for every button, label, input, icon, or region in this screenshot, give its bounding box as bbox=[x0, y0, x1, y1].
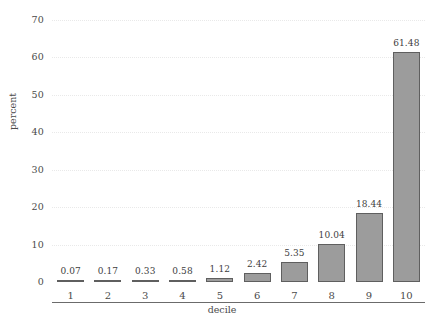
x-axis-title: decile bbox=[0, 305, 444, 315]
bar bbox=[206, 278, 233, 282]
gridline bbox=[52, 95, 425, 97]
bar-value-label: 5.35 bbox=[271, 249, 317, 258]
bar-chart: percent decile 0102030405060700.0710.172… bbox=[0, 0, 444, 327]
x-tick-label: 7 bbox=[277, 291, 311, 301]
bar bbox=[244, 273, 271, 282]
plot-area bbox=[52, 20, 425, 282]
x-tick-label: 8 bbox=[315, 291, 349, 301]
x-tick-label: 2 bbox=[91, 291, 125, 301]
bar bbox=[281, 262, 308, 282]
y-tick-label: 50 bbox=[4, 90, 44, 100]
y-tick-label: 10 bbox=[4, 240, 44, 250]
x-tick-label: 4 bbox=[166, 291, 200, 301]
x-tick-label: 3 bbox=[128, 291, 162, 301]
x-tick-label: 10 bbox=[389, 291, 423, 301]
x-tick-label: 6 bbox=[240, 291, 274, 301]
gridline bbox=[52, 57, 425, 59]
bar-value-label: 61.48 bbox=[383, 39, 429, 48]
bar bbox=[356, 213, 383, 282]
bar bbox=[318, 244, 345, 282]
bar-value-label: 10.04 bbox=[309, 231, 355, 240]
bar bbox=[132, 280, 159, 283]
y-tick-label: 30 bbox=[4, 165, 44, 175]
y-tick-label: 70 bbox=[4, 15, 44, 25]
x-tick-label: 1 bbox=[54, 291, 88, 301]
x-axis-line bbox=[52, 302, 425, 303]
gridline bbox=[52, 20, 425, 22]
gridline bbox=[52, 170, 425, 172]
bar-value-label: 18.44 bbox=[346, 200, 392, 209]
bar bbox=[94, 280, 121, 283]
bar bbox=[169, 280, 196, 283]
bar bbox=[393, 52, 420, 282]
x-tick-label: 5 bbox=[203, 291, 237, 301]
y-tick-label: 40 bbox=[4, 127, 44, 137]
x-tick-label: 9 bbox=[352, 291, 386, 301]
bar bbox=[57, 280, 84, 283]
bar-value-label: 2.42 bbox=[234, 260, 280, 269]
y-tick-label: 0 bbox=[4, 277, 44, 287]
gridline bbox=[52, 132, 425, 134]
y-tick-label: 20 bbox=[4, 202, 44, 212]
y-tick-label: 60 bbox=[4, 52, 44, 62]
